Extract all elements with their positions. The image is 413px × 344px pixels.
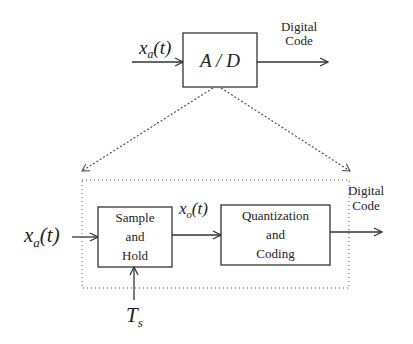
clock-subscript: s — [138, 315, 143, 330]
intermediate-signal-label: xo(t) — [179, 200, 208, 220]
clock-symbol: T — [126, 303, 138, 327]
clock-signal-label: Ts — [126, 305, 143, 329]
expansion-line-left — [82, 88, 213, 171]
signal-symbol: x — [24, 223, 33, 247]
signal-arg: (t) — [192, 199, 208, 218]
signal-arg: (t) — [153, 37, 171, 58]
top-output-label: Digital Code — [274, 20, 324, 48]
bottom-output-label-line2: Code — [341, 198, 391, 213]
bottom-input-signal-label: xa(t) — [24, 225, 60, 249]
sample-hold-line1: Sample — [98, 208, 172, 227]
top-output-label-line2: Code — [274, 34, 324, 48]
sample-hold-line2: and — [98, 227, 172, 246]
sample-hold-label: Sample and Hold — [98, 208, 172, 265]
quantization-line3: Coding — [221, 244, 330, 263]
sample-hold-line3: Hold — [98, 246, 172, 265]
expansion-line-right — [221, 88, 350, 171]
top-output-label-line1: Digital — [274, 20, 324, 34]
ad-block-label: A / D — [183, 51, 257, 70]
top-input-signal-label: xa(t) — [139, 38, 171, 61]
quantization-line2: and — [221, 225, 330, 244]
quantization-line1: Quantization — [221, 206, 330, 225]
quantization-coding-label: Quantization and Coding — [221, 206, 330, 263]
signal-symbol: x — [179, 199, 187, 218]
bottom-output-label-line1: Digital — [341, 183, 391, 198]
bottom-output-label: Digital Code — [341, 183, 391, 213]
signal-arg: (t) — [40, 223, 60, 247]
